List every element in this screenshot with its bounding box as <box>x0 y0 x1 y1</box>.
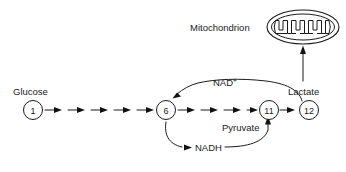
node-6-number: 6 <box>163 106 168 116</box>
node-1-number: 1 <box>30 106 35 116</box>
arrow-segment <box>45 107 62 113</box>
node-11[interactable]: 11 <box>260 101 279 120</box>
nad-plus-superscript: + <box>233 77 237 84</box>
node-11-number: 11 <box>264 106 273 116</box>
nad-plus-pathway <box>173 79 303 101</box>
nad-plus-label: NAD+ <box>213 77 237 89</box>
lactate-uptake-arrowhead <box>300 46 306 55</box>
nad-plus-label-text: NAD <box>213 77 233 88</box>
nadh-curve-left <box>166 122 182 147</box>
arrow-segment <box>114 107 131 113</box>
node-1[interactable]: 1 <box>24 101 43 120</box>
arrow-chain-glucose-to-node6 <box>45 107 154 113</box>
nad-plus-arrowhead <box>173 93 182 99</box>
mitochondrion-outer-membrane <box>267 10 339 44</box>
arrow-segment <box>137 107 154 113</box>
arrow-segment <box>224 107 241 113</box>
arrow-segment <box>178 107 195 113</box>
arrow-segment <box>91 107 108 113</box>
arrow-node11-to-node12 <box>280 107 295 113</box>
nadh-arrowhead-left <box>184 145 192 151</box>
node-6[interactable]: 6 <box>157 101 176 120</box>
arrow-segment <box>68 107 85 113</box>
lactate-to-mitochondrion-arrow <box>300 46 306 82</box>
nad-plus-curve <box>177 79 302 101</box>
mitochondrion-organelle <box>267 10 339 44</box>
pyruvate-label: Pyruvate <box>222 122 260 133</box>
nadh-label: NADH <box>195 142 222 153</box>
glucose-label: Glucose <box>13 86 48 97</box>
pathway-diagram-canvas: 1 6 11 12 Glucose NAD+ NADH Pyruvate Lac… <box>0 0 346 172</box>
mitochondrion-label: Mitochondrion <box>190 22 250 33</box>
arrow-segment <box>247 107 258 113</box>
arrow-chain-node6-to-node11 <box>178 107 258 113</box>
lactate-label: Lactate <box>288 86 319 97</box>
arrow-segment <box>201 107 218 113</box>
node-12-number: 12 <box>304 106 314 116</box>
diagram-root: 1 6 11 12 Glucose NAD+ NADH Pyruvate Lac… <box>0 0 346 172</box>
node-12[interactable]: 12 <box>300 101 319 120</box>
